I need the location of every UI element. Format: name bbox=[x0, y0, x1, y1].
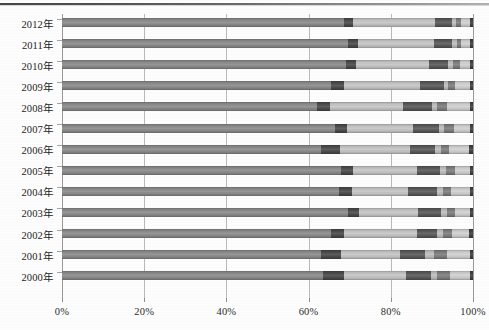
bar-segment-series-6 bbox=[444, 124, 454, 133]
x-axis-label-20%: 20% bbox=[134, 306, 154, 317]
y-axis-label-2000年: 2000年 bbox=[22, 268, 54, 283]
bar-segment-series-4 bbox=[413, 124, 439, 133]
y-axis-label-2008年: 2008年 bbox=[22, 99, 54, 114]
bar-segment-series-1 bbox=[62, 81, 331, 90]
plot-area bbox=[62, 14, 473, 298]
gridline-100% bbox=[473, 14, 474, 298]
x-axis-label-100%: 100% bbox=[460, 306, 485, 317]
y-axis-label-2005年: 2005年 bbox=[22, 163, 54, 178]
bar-segment-series-1 bbox=[62, 208, 348, 217]
bar-segment-series-1 bbox=[62, 250, 321, 259]
bar-segment-series-2 bbox=[321, 145, 340, 154]
x-tick-60% bbox=[309, 298, 310, 302]
bar-segment-series-8 bbox=[470, 124, 473, 133]
bar-segment-series-2 bbox=[331, 229, 343, 238]
bar-row bbox=[62, 250, 473, 259]
bar-segment-series-6 bbox=[434, 250, 448, 259]
bar-segment-series-2 bbox=[344, 18, 353, 27]
bar-segment-series-7 bbox=[460, 60, 470, 69]
bar-segment-series-2 bbox=[317, 102, 330, 111]
x-tick-0% bbox=[62, 298, 63, 302]
bar-segment-series-3 bbox=[344, 271, 406, 280]
bar-segment-series-7 bbox=[455, 166, 470, 175]
bar-segment-series-6 bbox=[437, 102, 447, 111]
bar-segment-series-2 bbox=[348, 208, 360, 217]
bar-row bbox=[62, 229, 473, 238]
bar-segment-series-7 bbox=[450, 271, 470, 280]
bar-segment-series-1 bbox=[62, 18, 344, 27]
bar-segment-series-8 bbox=[470, 102, 473, 111]
y-axis-label-2001年: 2001年 bbox=[22, 247, 54, 262]
bar-segment-series-1 bbox=[62, 39, 348, 48]
bar-segment-series-4 bbox=[400, 250, 425, 259]
bar-segment-series-6 bbox=[446, 166, 455, 175]
y-axis-label-2006年: 2006年 bbox=[22, 142, 54, 157]
y-axis-label-2002年: 2002年 bbox=[22, 226, 54, 241]
bar-segment-series-4 bbox=[406, 271, 431, 280]
x-tick-40% bbox=[226, 298, 227, 302]
x-axis-label-60%: 60% bbox=[299, 306, 319, 317]
bar-segment-series-8 bbox=[470, 18, 473, 27]
bar-segment-series-2 bbox=[323, 271, 344, 280]
bar-segment-series-3 bbox=[344, 229, 417, 238]
bar-segment-series-2 bbox=[335, 124, 347, 133]
bar-segment-series-8 bbox=[470, 166, 473, 175]
bar-segment-series-5 bbox=[425, 250, 433, 259]
bar-segment-series-4 bbox=[435, 18, 452, 27]
x-tick-100% bbox=[473, 298, 474, 302]
bar-segment-series-1 bbox=[62, 229, 331, 238]
bar-segment-series-4 bbox=[420, 81, 445, 90]
bar-row bbox=[62, 18, 473, 27]
bar-segment-series-1 bbox=[62, 60, 346, 69]
bar-segment-series-4 bbox=[418, 208, 440, 217]
bar-row bbox=[62, 145, 473, 154]
bar-segment-series-2 bbox=[341, 166, 353, 175]
bar-segment-series-7 bbox=[447, 250, 469, 259]
bar-segment-series-3 bbox=[347, 124, 413, 133]
bar-segment-series-4 bbox=[434, 39, 452, 48]
bar-row bbox=[62, 271, 473, 280]
bar-segment-series-7 bbox=[455, 208, 469, 217]
x-axis-label-0%: 0% bbox=[55, 306, 69, 317]
bar-segment-series-3 bbox=[330, 102, 403, 111]
bar-segment-series-7 bbox=[452, 229, 469, 238]
bar-row bbox=[62, 124, 473, 133]
y-axis-label-2003年: 2003年 bbox=[22, 205, 54, 220]
bar-segment-series-6 bbox=[437, 271, 449, 280]
bar-segment-series-6 bbox=[443, 229, 452, 238]
bar-segment-series-7 bbox=[449, 145, 469, 154]
bar-segment-series-7 bbox=[451, 187, 469, 196]
bar-segment-series-8 bbox=[470, 81, 473, 90]
bar-segment-series-8 bbox=[470, 60, 473, 69]
bar-segment-series-7 bbox=[454, 124, 470, 133]
bar-row bbox=[62, 60, 473, 69]
bar-row bbox=[62, 187, 473, 196]
bar-segment-series-7 bbox=[447, 102, 470, 111]
bar-segment-series-2 bbox=[321, 250, 342, 259]
bar-segment-series-4 bbox=[408, 187, 438, 196]
bar-row bbox=[62, 81, 473, 90]
x-tick-80% bbox=[391, 298, 392, 302]
bar-segment-series-8 bbox=[470, 187, 473, 196]
bar-segment-series-1 bbox=[62, 271, 323, 280]
bar-segment-series-3 bbox=[344, 81, 420, 90]
bar-segment-series-8 bbox=[470, 250, 473, 259]
bar-segment-series-7 bbox=[461, 39, 469, 48]
y-axis-labels: 2012年2011年2010年2009年2008年2007年2006年2005年… bbox=[0, 14, 57, 298]
chart-figure: 2012年2011年2010年2009年2008年2007年2006年2005年… bbox=[0, 0, 489, 330]
scan-artifact-line-secondary bbox=[0, 5, 489, 6]
bar-segment-series-1 bbox=[62, 145, 321, 154]
bar-segment-series-8 bbox=[470, 39, 473, 48]
bar-segment-series-2 bbox=[348, 39, 359, 48]
bar-segment-series-2 bbox=[331, 81, 343, 90]
bar-segment-series-1 bbox=[62, 166, 341, 175]
bar-segment-series-8 bbox=[469, 229, 473, 238]
x-axis-label-80%: 80% bbox=[381, 306, 401, 317]
bar-segment-series-4 bbox=[403, 102, 432, 111]
bar-row bbox=[62, 166, 473, 175]
bar-segment-series-3 bbox=[359, 208, 418, 217]
bar-row bbox=[62, 39, 473, 48]
y-axis-label-2004年: 2004年 bbox=[22, 184, 54, 199]
bar-segment-series-1 bbox=[62, 124, 335, 133]
bar-segment-series-6 bbox=[447, 208, 455, 217]
